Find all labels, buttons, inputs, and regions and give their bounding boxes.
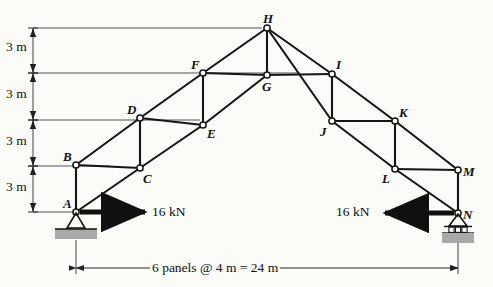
vertical-dimension-label-3: 3 m	[6, 134, 27, 148]
joint-label-C: C	[143, 172, 152, 185]
truss-member-KM	[395, 121, 458, 170]
truss-member-LN	[395, 169, 458, 213]
joint-F	[200, 70, 206, 76]
truss-svg	[0, 0, 493, 287]
truss-member-IK	[332, 74, 395, 121]
truss-member-DF	[140, 73, 203, 118]
joint-label-K: K	[399, 106, 408, 119]
joint-label-G: G	[262, 80, 271, 93]
roller-wheel-1	[449, 227, 454, 232]
joint-D	[137, 115, 143, 121]
vertical-dimension-label-2: 3 m	[6, 87, 27, 101]
joint-label-I: I	[336, 58, 341, 71]
truss-member-JL	[332, 121, 395, 169]
joint-label-N: N	[463, 208, 472, 221]
truss-member-HI	[267, 28, 332, 74]
truss-members	[76, 28, 458, 213]
truss-member-CE	[140, 125, 203, 168]
truss-member-DE	[140, 118, 203, 125]
truss-diagram-figure: ABCDEFGHIJKLMN 3 m3 m3 m3 m 16 kN16 kN 6…	[0, 0, 493, 287]
joint-label-J: J	[320, 125, 327, 138]
truss-member-LM	[395, 169, 458, 170]
truss-supports	[55, 213, 474, 243]
joint-label-L: L	[382, 172, 390, 185]
joint-label-M: M	[463, 165, 475, 178]
ground-hatch	[55, 229, 97, 239]
joint-K	[392, 118, 398, 124]
vertical-dimension-label-1: 3 m	[6, 40, 27, 54]
joint-M	[455, 167, 461, 173]
joint-E	[200, 122, 206, 128]
joint-I	[329, 71, 335, 77]
joint-L	[392, 166, 398, 172]
joint-label-H: H	[263, 12, 273, 25]
truss-member-EG	[203, 75, 267, 125]
ground-hatch	[442, 233, 474, 243]
truss-member-BD	[76, 118, 140, 165]
joint-label-F: F	[191, 58, 200, 71]
applied-loads	[80, 212, 454, 213]
load-label-A: 16 kN	[152, 205, 185, 219]
joint-label-A: A	[63, 197, 72, 210]
truss-member-GI	[267, 74, 332, 75]
joint-label-D: D	[127, 103, 136, 116]
joint-J	[329, 118, 335, 124]
truss-member-BC	[76, 165, 140, 168]
span-arrow-left	[76, 265, 84, 271]
truss-member-FH	[203, 28, 267, 73]
roller-wheel-2	[455, 227, 460, 232]
pin-support	[55, 213, 97, 239]
vertical-dimension-label-4: 3 m	[6, 180, 27, 194]
span-dimension-label: 6 panels @ 4 m = 24 m	[150, 261, 280, 275]
joint-G	[264, 72, 270, 78]
joint-label-B: B	[63, 150, 72, 163]
truss-member-AC	[76, 168, 140, 212]
joint-label-E: E	[207, 127, 216, 140]
roller-wheel-3	[462, 227, 467, 232]
span-arrow-right	[450, 265, 458, 271]
load-label-N: 16 kN	[336, 205, 369, 219]
joint-B	[73, 162, 79, 168]
